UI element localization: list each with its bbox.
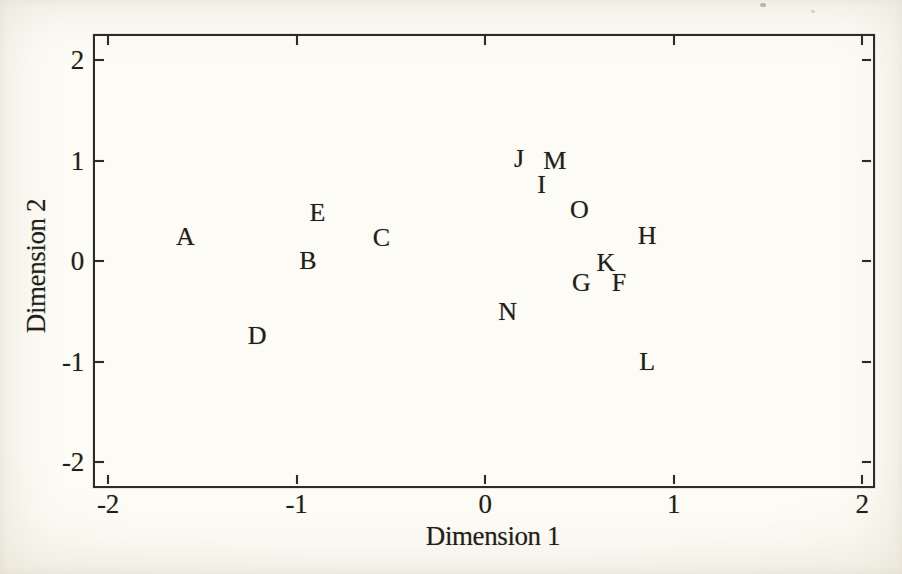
x-tick-mark-top (861, 36, 863, 45)
y-tick-mark-right (862, 361, 871, 363)
data-point-label-E: E (309, 200, 325, 226)
y-tick-mark-left (95, 59, 104, 61)
data-point-label-D: D (248, 323, 266, 349)
y-tick-mark-right (862, 59, 871, 61)
x-tick-label: 0 (478, 489, 491, 519)
x-tick-label: 1 (667, 489, 680, 519)
y-tick-mark-left (95, 461, 104, 463)
scanned-figure-page: -2-1012-2-1012ABCDEFGHIJKLMNO Dimension … (0, 0, 902, 574)
x-tick-mark-bottom (673, 475, 675, 484)
y-tick-label: 2 (0, 45, 84, 75)
y-tick-label: -2 (0, 447, 84, 477)
x-tick-label: 2 (855, 489, 868, 519)
x-axis-title: Dimension 1 (426, 521, 560, 551)
data-point-label-H: H (638, 223, 656, 249)
data-point-label-K: K (596, 250, 614, 276)
data-point-label-A: A (176, 224, 194, 250)
y-tick-mark-right (862, 461, 871, 463)
data-point-label-M: M (543, 148, 566, 174)
data-point-label-G: G (572, 270, 590, 296)
y-tick-label: -1 (0, 347, 84, 377)
data-point-label-J: J (514, 146, 524, 172)
x-tick-label: -2 (97, 489, 119, 519)
data-point-label-C: C (373, 225, 390, 251)
data-point-label-B: B (299, 248, 316, 274)
scan-speck (760, 3, 766, 7)
scan-speck (811, 10, 815, 13)
y-tick-mark-left (95, 361, 104, 363)
x-tick-mark-bottom (484, 475, 486, 484)
y-tick-mark-right (862, 160, 871, 162)
data-point-label-O: O (570, 197, 588, 223)
data-point-label-I: I (537, 172, 545, 198)
plot-area (93, 34, 875, 488)
x-tick-mark-bottom (107, 475, 109, 484)
y-tick-label: 1 (0, 146, 84, 176)
x-tick-mark-top (107, 36, 109, 45)
x-tick-mark-bottom (296, 475, 298, 484)
y-axis-title: Dimension 2 (21, 199, 51, 333)
x-tick-mark-bottom (861, 475, 863, 484)
y-tick-mark-left (95, 160, 104, 162)
y-tick-mark-right (862, 260, 871, 262)
y-tick-mark-left (95, 260, 104, 262)
x-tick-label: -1 (286, 489, 308, 519)
data-point-label-L: L (639, 349, 655, 375)
data-point-label-N: N (498, 299, 516, 325)
x-tick-mark-top (673, 36, 675, 45)
x-tick-mark-top (296, 36, 298, 45)
x-tick-mark-top (484, 36, 486, 45)
